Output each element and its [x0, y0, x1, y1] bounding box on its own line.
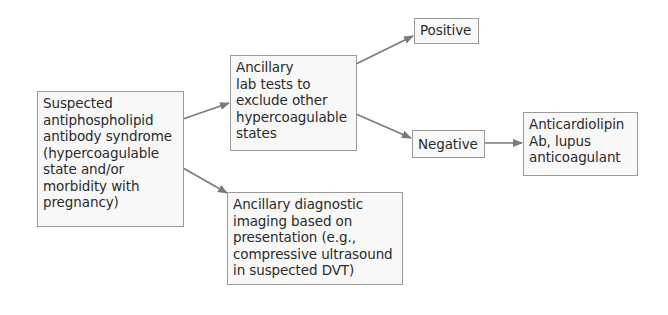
node-ancillary-imaging: Ancillary diagnostic imaging based on pr… [227, 192, 403, 285]
arrow-lab-to-negative [356, 114, 411, 138]
arrow-suspected-to-imaging [183, 168, 227, 193]
node-anticardiolipin: Anticardiolipin Ab, lupus anticoagulant [523, 112, 638, 176]
node-suspected-aps: Suspected antiphospholipid antibody synd… [37, 91, 184, 227]
arrow-suspected-to-lab [183, 103, 229, 119]
node-positive: Positive [414, 18, 479, 44]
node-negative: Negative [412, 130, 485, 158]
arrow-lab-to-positive [356, 36, 413, 64]
node-ancillary-lab-tests: Ancillary lab tests to exclude other hyp… [230, 55, 357, 151]
